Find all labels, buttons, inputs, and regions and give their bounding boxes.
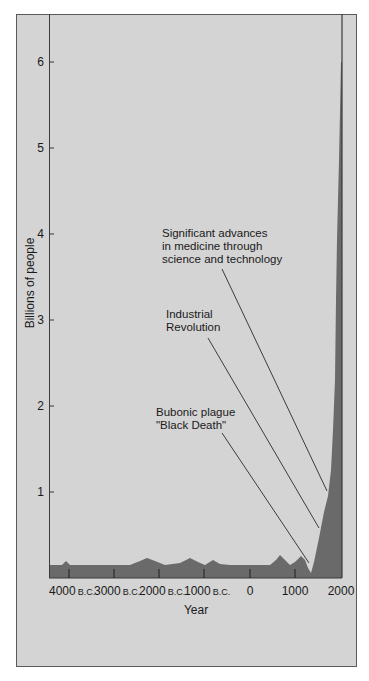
annotation-medicine-leader xyxy=(222,269,327,491)
y-tick-3: 3 xyxy=(37,313,44,327)
x-tick-0: 0 xyxy=(247,584,254,598)
x-tick-1000bc: 1000B.C. xyxy=(184,584,230,598)
x-tick-3000bc: 3000B.C. xyxy=(94,584,140,598)
annotation-industrial-line2: Revolution xyxy=(166,321,220,333)
annotation-industrial: Industrial Revolution xyxy=(166,308,319,528)
x-axis-label: Year xyxy=(184,603,208,617)
annotation-medicine-line1: Significant advances xyxy=(162,227,268,239)
annotation-plague: Bubonic plague "Black Death" xyxy=(156,406,309,563)
y-tick-1: 1 xyxy=(37,485,44,499)
y-tick-5: 5 xyxy=(37,141,44,155)
x-tick-1000: 1000 xyxy=(282,584,309,598)
x-tick-2000bc: 2000B.C. xyxy=(139,584,185,598)
annotation-plague-leader xyxy=(222,433,309,563)
x-tick-labels: 4000B.C. 3000B.C. 2000B.C. 1000B.C. 0 10… xyxy=(49,584,355,598)
y-axis-label: Billions of people xyxy=(23,237,37,328)
y-tick-2: 2 xyxy=(37,399,44,413)
annotation-medicine-line2: in medicine through xyxy=(162,240,262,252)
population-chart: 6 5 4 3 2 1 Billions of people 4000B.C. … xyxy=(0,0,369,681)
population-area xyxy=(49,62,342,578)
x-tick-4000bc: 4000B.C. xyxy=(49,584,95,598)
y-tick-6: 6 xyxy=(37,55,44,69)
x-tick-2000: 2000 xyxy=(328,584,355,598)
plot-area xyxy=(49,14,342,578)
annotation-medicine: Significant advances in medicine through… xyxy=(162,227,327,491)
annotation-plague-line1: Bubonic plague xyxy=(156,406,235,418)
y-tick-4: 4 xyxy=(37,227,44,241)
annotation-industrial-leader xyxy=(208,338,319,528)
annotation-plague-line2: "Black Death" xyxy=(156,419,226,431)
y-tick-labels: 6 5 4 3 2 1 xyxy=(37,55,44,499)
annotation-industrial-line1: Industrial xyxy=(166,308,213,320)
annotation-medicine-line3: science and technology xyxy=(162,253,282,265)
